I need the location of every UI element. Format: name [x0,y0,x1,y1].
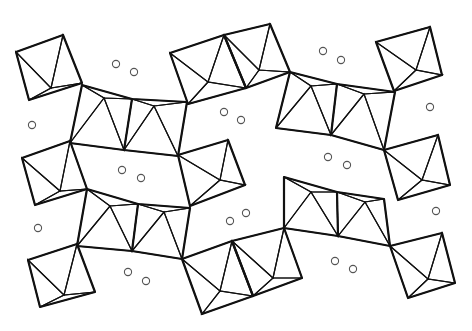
octahedron [182,241,253,314]
chain-face [77,206,132,251]
octahedron-face [170,53,208,104]
octahedron [232,228,302,296]
octahedron [384,135,450,200]
chain-divider [337,192,338,236]
interstitial-atom [349,265,356,272]
interstitial-atom [426,103,433,110]
octahedron [28,244,95,307]
octahedral-chain [77,189,190,259]
octahedral-chain [276,72,395,150]
octahedron-outline [28,244,95,307]
octahedron-face [16,52,51,100]
interstitial-atom [34,224,41,231]
interstitial-atom [137,174,144,181]
octahedron-outline [178,140,245,206]
octahedron-face [259,24,290,72]
octahedron-outline [232,228,302,296]
octahedron-face [428,233,455,283]
octahedral-chain [70,85,187,156]
octahedra-layer [16,24,455,314]
octahedron [178,140,245,206]
interstitial-atom [242,209,249,216]
octahedron-face [220,140,245,185]
octahedron-outline [22,141,87,205]
octahedron [22,141,87,205]
interstitial-atom [130,68,137,75]
interstitial-atom [343,161,350,168]
interstitial-atom [319,47,326,54]
chain-face [338,202,390,246]
octahedron-face [224,24,270,70]
chain-divider [124,99,132,150]
interstitial-atom [324,153,331,160]
interstitial-atom [220,108,227,115]
interstitial-atom [226,217,233,224]
octahedron-face [220,241,253,296]
octahedron-outline [376,27,442,91]
octahedron [376,27,442,91]
chain-divider [331,84,337,135]
octahedron-outline [182,241,253,314]
polyhedral-framework [0,0,472,331]
octahedron [390,233,455,298]
interstitial-atom [112,60,119,67]
octahedral-chain [284,177,390,246]
octahedron-face [376,42,416,91]
octahedron-face [232,241,273,296]
interstitial-atom [237,116,244,123]
octahedron-face [422,135,450,185]
interstitial-atom [28,121,35,128]
octahedron-outline [16,35,82,100]
octahedron-face [416,27,442,75]
chain-face [124,106,178,156]
interstitial-atom [124,268,131,275]
octahedron-face [224,35,259,88]
octahedron-face [182,259,220,314]
chain-face [311,192,338,236]
interstitial-atom [118,166,125,173]
octahedron-outline [224,24,290,88]
interstitial-atom [142,277,149,284]
octahedron-outline [384,135,450,200]
octahedron-face [390,246,428,298]
chain-face [276,72,311,128]
octahedron-outline [390,233,455,298]
octahedron [224,24,290,88]
chain-face [337,192,365,236]
interstitial-atom [337,56,344,63]
octahedron-face [384,150,422,200]
crystal-structure-diagram [0,0,472,331]
interstitial-atom [331,257,338,264]
chain-outline [276,72,395,150]
interstitial-atom [432,207,439,214]
octahedron [16,35,82,100]
